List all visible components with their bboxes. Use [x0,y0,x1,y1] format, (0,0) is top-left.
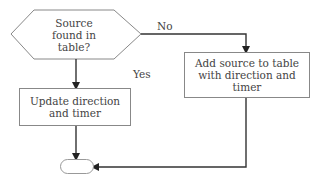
add-line-1: Add source to table [195,57,299,69]
update-line-1: Update direction [30,95,120,107]
decision-line-1: Source [34,17,114,29]
process-update-direction: Update direction and timer [19,88,131,126]
edge-label-yes: Yes [133,68,151,80]
add-line-2: with direction and [198,69,296,81]
decision-line-2: found in [34,29,114,41]
add-line-3: timer [233,81,262,93]
edge-no [141,34,246,50]
edge-label-no: No [157,20,173,32]
end-terminator [60,159,94,174]
decision-text: Source found in table? [34,17,114,53]
process-add-source: Add source to table with direction and t… [184,52,310,98]
update-line-2: and timer [49,107,101,119]
decision-line-3: table? [34,41,114,53]
